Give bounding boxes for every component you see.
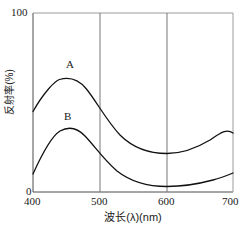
- curve-label-b: B: [64, 111, 71, 122]
- x-axis-title: 波长(λ)(nm): [33, 212, 233, 223]
- x-tick-label-600: 600: [158, 196, 175, 207]
- y-axis-max-label: 100: [11, 7, 28, 18]
- curve-b: [33, 128, 233, 186]
- x-tick-label-700: 700: [222, 196, 239, 207]
- curve-a: [33, 78, 233, 153]
- reflectance-spectrum-figure: 100 0 400 500 600 700 反射率(%) 波长(λ)(nm) A…: [0, 0, 245, 233]
- x-tick-label-500: 500: [91, 196, 108, 207]
- x-tick-label-400: 400: [24, 196, 41, 207]
- curve-label-a: A: [66, 59, 74, 70]
- y-axis-title: 反射率(%): [5, 60, 15, 124]
